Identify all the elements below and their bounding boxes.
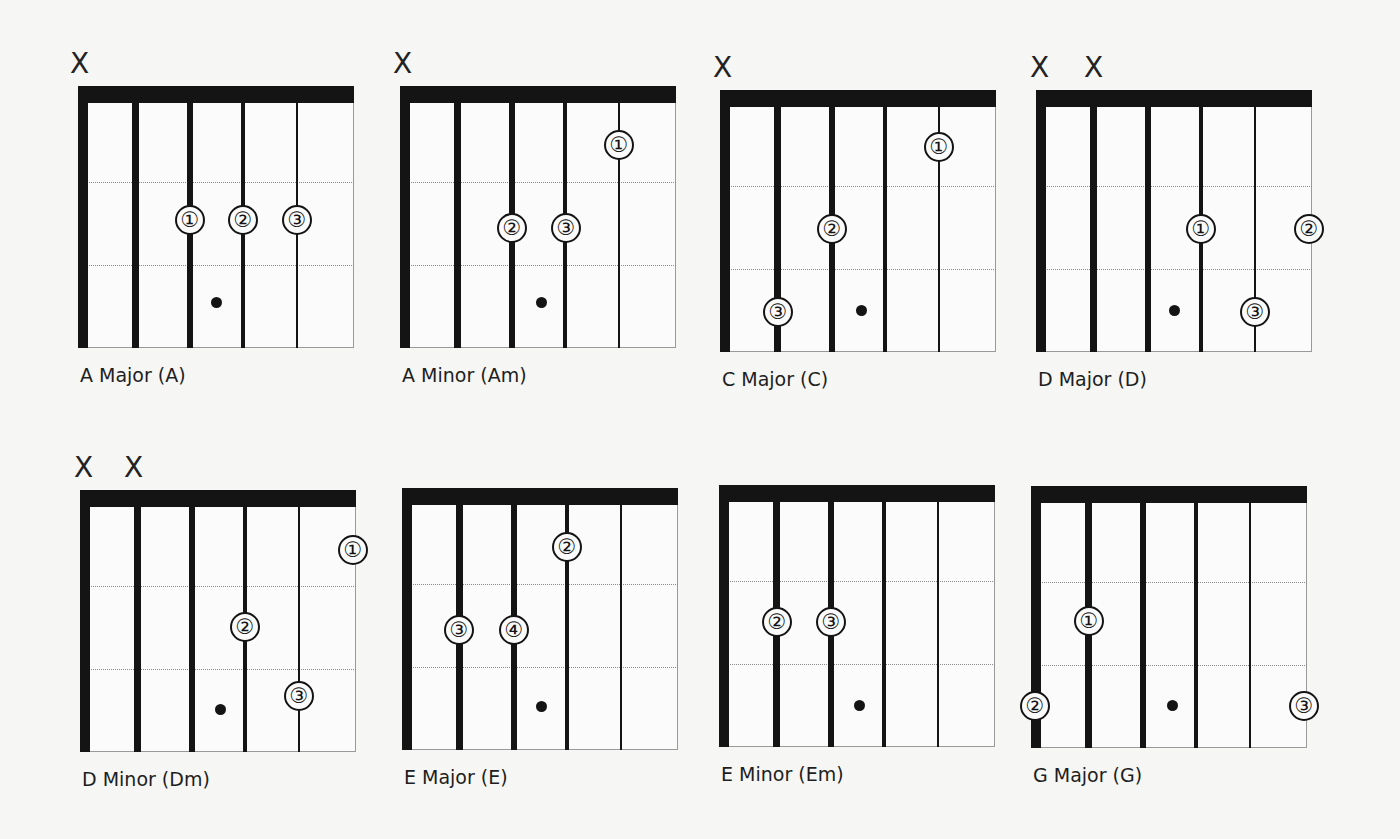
finger-marker: ③ bbox=[551, 213, 581, 243]
fret-line bbox=[720, 269, 996, 270]
position-dot bbox=[536, 297, 547, 308]
fretboard-grid: ① ② ③ bbox=[78, 86, 354, 348]
chord-diagram-e-major: ② ③ ④ E Major (E) bbox=[402, 488, 702, 818]
chord-label: D Major (D) bbox=[1038, 368, 1147, 390]
string-1 bbox=[400, 86, 410, 348]
string-5 bbox=[937, 485, 939, 747]
chord-label: A Minor (Am) bbox=[402, 364, 527, 386]
string-5 bbox=[938, 90, 940, 352]
finger-marker: ③ bbox=[1289, 691, 1319, 721]
nut bbox=[402, 488, 678, 505]
fret-line bbox=[78, 182, 354, 183]
finger-marker: ③ bbox=[763, 297, 793, 327]
finger-marker: ① bbox=[1186, 214, 1216, 244]
mute-marker: X bbox=[70, 50, 89, 78]
string-2 bbox=[134, 490, 141, 752]
mute-marker: X bbox=[393, 50, 412, 78]
fret-line bbox=[80, 586, 356, 587]
finger-marker: ③ bbox=[1240, 297, 1270, 327]
fret-line bbox=[1031, 665, 1307, 666]
position-dot bbox=[854, 700, 865, 711]
string-2 bbox=[454, 86, 461, 348]
string-4 bbox=[882, 485, 886, 747]
chord-diagram-g-major: ① ② ③ G Major (G) bbox=[1031, 486, 1331, 816]
finger-marker: ② bbox=[230, 612, 260, 642]
finger-marker: ① bbox=[1074, 606, 1104, 636]
nut bbox=[80, 490, 356, 507]
chord-diagram-a-minor: ① ② ③ X A Minor (Am) bbox=[400, 86, 700, 416]
fret-line bbox=[78, 265, 354, 266]
fretboard-grid: ② ③ ④ bbox=[402, 488, 678, 750]
string-5 bbox=[298, 490, 300, 752]
nut bbox=[1036, 90, 1312, 107]
string-2 bbox=[132, 86, 139, 348]
chord-label: G Major (G) bbox=[1033, 764, 1142, 786]
string-4 bbox=[1194, 486, 1198, 748]
chord-label: C Major (C) bbox=[722, 368, 828, 390]
fretboard-grid: ① ② ③ bbox=[80, 490, 356, 752]
string-1 bbox=[402, 488, 412, 750]
mute-marker: X bbox=[74, 454, 93, 482]
finger-marker: ④ bbox=[499, 615, 529, 645]
chord-diagram-d-minor: ① ② ③ X X D Minor (Dm) bbox=[80, 490, 380, 820]
fret-line bbox=[719, 581, 995, 582]
string-5 bbox=[618, 86, 620, 348]
position-dot bbox=[1169, 305, 1180, 316]
nut bbox=[720, 90, 996, 107]
fretboard-grid: ① ② ③ bbox=[400, 86, 676, 348]
string-3 bbox=[1140, 486, 1146, 748]
string-1 bbox=[78, 86, 88, 348]
position-dot bbox=[215, 704, 226, 715]
fretboard-grid: ① ② ③ bbox=[720, 90, 996, 352]
finger-marker: ② bbox=[497, 213, 527, 243]
finger-marker: ③ bbox=[282, 205, 312, 235]
string-1 bbox=[719, 485, 729, 747]
fret-line bbox=[720, 186, 996, 187]
nut bbox=[400, 86, 676, 103]
nut bbox=[78, 86, 354, 103]
mute-marker: X bbox=[1084, 54, 1103, 82]
mute-marker: X bbox=[124, 454, 143, 482]
string-3 bbox=[1145, 90, 1151, 352]
finger-marker: ③ bbox=[444, 615, 474, 645]
string-3 bbox=[189, 490, 195, 752]
string-1 bbox=[80, 490, 90, 752]
fret-line bbox=[1036, 269, 1312, 270]
string-1 bbox=[1036, 90, 1046, 352]
fretboard-grid: ① ② ③ bbox=[1031, 486, 1307, 748]
fretboard-grid: ① ② ③ bbox=[1036, 90, 1312, 352]
finger-marker: ② bbox=[228, 205, 258, 235]
chord-label: E Major (E) bbox=[404, 766, 508, 788]
chord-diagram-a-major: ① ② ③ X A Major (A) bbox=[78, 86, 378, 416]
finger-marker: ① bbox=[175, 205, 205, 235]
chord-label: E Minor (Em) bbox=[721, 763, 844, 785]
finger-marker: ① bbox=[338, 535, 368, 565]
fret-line bbox=[400, 265, 676, 266]
string-2 bbox=[1090, 90, 1097, 352]
position-dot bbox=[536, 701, 547, 712]
string-5 bbox=[1249, 486, 1251, 748]
chord-diagram-d-major: ① ② ③ X X D Major (D) bbox=[1036, 90, 1336, 420]
fret-line bbox=[402, 584, 678, 585]
chord-label: D Minor (Dm) bbox=[82, 768, 210, 790]
finger-marker: ③ bbox=[816, 607, 846, 637]
finger-marker: ③ bbox=[284, 681, 314, 711]
fretboard-grid: ② ③ bbox=[719, 485, 995, 747]
finger-marker: ② bbox=[817, 214, 847, 244]
fret-line bbox=[402, 667, 678, 668]
finger-marker: ② bbox=[552, 532, 582, 562]
nut bbox=[1031, 486, 1307, 503]
string-4 bbox=[565, 488, 569, 750]
chord-diagram-c-major: ① ② ③ X C Major (C) bbox=[720, 90, 1020, 420]
fret-line bbox=[719, 664, 995, 665]
finger-marker: ② bbox=[1020, 691, 1050, 721]
mute-marker: X bbox=[713, 54, 732, 82]
string-5 bbox=[620, 488, 622, 750]
fret-line bbox=[400, 182, 676, 183]
string-1 bbox=[720, 90, 730, 352]
fret-line bbox=[1031, 582, 1307, 583]
string-4 bbox=[883, 90, 887, 352]
position-dot bbox=[1167, 700, 1178, 711]
mute-marker: X bbox=[1030, 54, 1049, 82]
finger-marker: ② bbox=[762, 607, 792, 637]
